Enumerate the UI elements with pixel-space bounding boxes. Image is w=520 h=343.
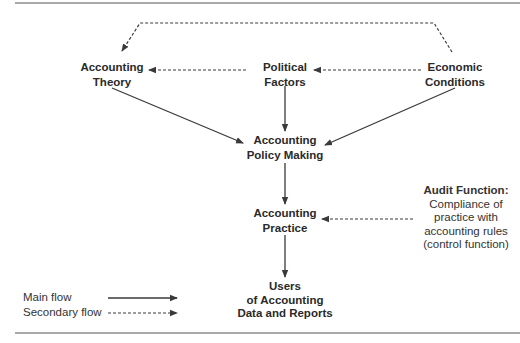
node-economic-conditions-line2: Conditions <box>425 75 485 90</box>
edge-theory-to-policy <box>112 88 243 143</box>
node-political-factors-line1: Political <box>263 60 307 75</box>
legend-main-flow-label: Main flow <box>23 291 72 303</box>
node-political-factors: Political Factors <box>263 60 307 90</box>
audit-function-note: Audit Function: Compliance of practice w… <box>423 184 509 252</box>
audit-line2: practice with <box>423 211 509 225</box>
node-users-line2: of Accounting <box>237 294 332 308</box>
node-accounting-theory-line2: Theory <box>80 75 143 90</box>
node-political-factors-line2: Factors <box>263 75 307 90</box>
node-accounting-policy-making: Accounting Policy Making <box>247 133 324 163</box>
edge-economic-to-policy <box>325 88 455 145</box>
audit-line3: accounting rules <box>423 225 509 239</box>
node-economic-conditions: Economic Conditions <box>425 60 485 90</box>
legend-secondary-flow-label: Secondary flow <box>23 306 102 318</box>
node-accounting-practice: Accounting Practice <box>253 206 316 236</box>
audit-function-title: Audit Function: <box>423 184 509 198</box>
node-policy-line1: Accounting <box>247 133 324 148</box>
node-policy-line2: Policy Making <box>247 148 324 163</box>
node-users-line1: Users <box>237 280 332 294</box>
node-economic-conditions-line1: Economic <box>425 60 485 75</box>
audit-line4: (control function) <box>423 238 509 252</box>
node-practice-line2: Practice <box>253 221 316 236</box>
node-accounting-theory: Accounting Theory <box>80 60 143 90</box>
node-practice-line1: Accounting <box>253 206 316 221</box>
node-users-line3: Data and Reports <box>237 307 332 321</box>
node-accounting-theory-line1: Accounting <box>80 60 143 75</box>
edge-economic-to-theory <box>122 23 452 52</box>
node-users: Users of Accounting Data and Reports <box>237 280 332 321</box>
audit-line1: Compliance of <box>423 198 509 212</box>
